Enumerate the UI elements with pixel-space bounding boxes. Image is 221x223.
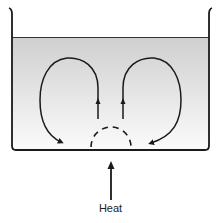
heat-arrowhead-icon [108, 161, 115, 169]
heat-label: Heat [0, 202, 221, 214]
liquid [12, 37, 209, 150]
convection-diagram [0, 0, 221, 223]
